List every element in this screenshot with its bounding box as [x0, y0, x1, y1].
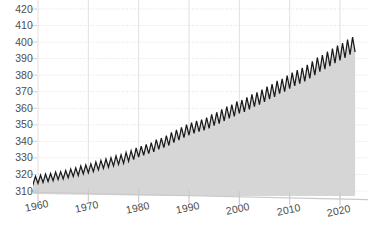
co2-area-chart: 420410400390380370360350340330320310 196… [0, 0, 368, 226]
x-axis-tick-labels: 1960197019801990200020102020 [0, 0, 368, 226]
x-axis-tick-label: 2010 [276, 202, 301, 217]
x-axis-tick-label: 1960 [24, 198, 49, 213]
x-axis-tick-label: 1970 [74, 199, 99, 214]
x-axis-tick-label: 2020 [326, 203, 351, 218]
x-axis-tick-label: 2000 [225, 201, 250, 216]
x-axis-tick-label: 1980 [125, 200, 150, 215]
x-axis-tick-label: 1990 [175, 200, 200, 215]
